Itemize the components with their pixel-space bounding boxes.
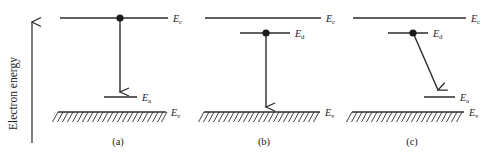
energy-band-diagram: Electron energy Ec Ea Ev bbox=[0, 0, 491, 159]
electron-energy-label: Electron energy bbox=[7, 57, 20, 130]
electron-dot-a bbox=[116, 14, 123, 21]
panel-b-caption: (b) bbox=[258, 136, 271, 148]
electron-dot-c bbox=[409, 29, 416, 36]
electron-dot-b bbox=[262, 29, 269, 36]
panel-a-caption: (a) bbox=[112, 136, 124, 148]
panel-c-caption: (c) bbox=[406, 136, 418, 148]
